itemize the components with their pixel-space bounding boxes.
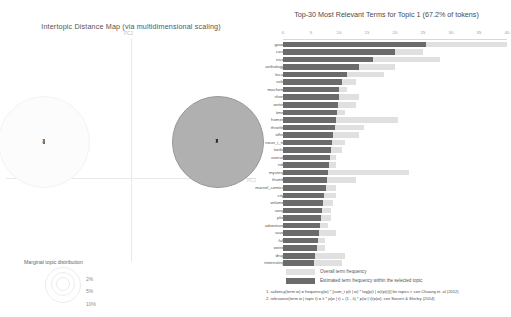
bar-topic-frequency [283, 223, 320, 229]
bar-topic-frequency [283, 94, 339, 100]
bar-topic-frequency [283, 177, 327, 183]
bar-topic-frequency [283, 253, 315, 259]
bar-row[interactable]: anthology [262, 64, 511, 71]
bar-term-label[interactable]: adventure [224, 223, 284, 228]
bar-row[interactable]: short [262, 94, 511, 101]
bar-row[interactable]: machete [262, 86, 511, 93]
bar-row[interactable]: nice [262, 56, 511, 63]
bar-term-label[interactable]: nice [224, 57, 284, 62]
bar-term-label[interactable]: plot [224, 215, 284, 220]
bar-term-label[interactable]: full [224, 238, 284, 243]
bar-term-label[interactable]: time [224, 110, 284, 115]
bar-term-label[interactable]: short [224, 94, 284, 99]
bar-term-label[interactable]: save [224, 230, 284, 235]
bar-term-label[interactable]: drug [224, 253, 284, 258]
x-axis-tick: 30 [449, 30, 454, 35]
bar-term-label[interactable]: interesting [224, 260, 284, 265]
bar-topic-frequency [283, 170, 328, 176]
bar-topic-frequency [283, 200, 323, 206]
bar-row[interactable]: throttle [262, 124, 511, 131]
bar-topic-frequency [283, 132, 333, 138]
bar-row[interactable]: local [262, 71, 511, 78]
bar-term-label[interactable]: volume [224, 200, 284, 205]
bar-term-label[interactable]: weird [224, 245, 284, 250]
bar-row[interactable]: time [262, 109, 511, 116]
bar-term-label[interactable]: city [224, 193, 284, 198]
topic-bubble-label-1: 1 [215, 138, 218, 144]
bar-row[interactable]: plot [262, 215, 511, 222]
bar-row[interactable]: good [262, 41, 511, 48]
bar-term-label[interactable]: rob [224, 162, 284, 167]
x-axis-tick: 25 [421, 30, 426, 35]
legend-label-overall: Overall term frequency [320, 269, 366, 274]
bar-topic-frequency [283, 72, 347, 78]
bar-topic-frequency [283, 102, 338, 108]
mtd-circle-2pct [56, 277, 70, 291]
bar-row[interactable]: mystery [262, 169, 511, 176]
bar-term-label[interactable]: offer [224, 132, 284, 137]
bar-term-label[interactable]: marvel_comics [224, 185, 284, 190]
x-axis-tick: 35 [477, 30, 482, 35]
bar-topic-frequency [283, 79, 342, 85]
bar-term-label[interactable]: song [224, 208, 284, 213]
bar-term-label[interactable]: noun_i_ts [224, 140, 284, 145]
bar-topic-frequency [283, 117, 336, 123]
bar-row[interactable]: save [262, 230, 511, 237]
bar-topic-frequency [283, 110, 337, 116]
bar-topic-frequency [283, 245, 317, 251]
bar-row[interactable]: adventure [262, 222, 511, 229]
bar-topic-frequency [283, 215, 321, 221]
bar-row[interactable]: drug [262, 252, 511, 259]
bar-row[interactable]: homes [262, 116, 511, 123]
bar-topic-frequency [283, 125, 335, 131]
bar-row[interactable]: volume [262, 199, 511, 206]
footnote-saliency: 1. saliency(term w) = frequency(w) * [su… [266, 288, 511, 295]
bar-topic-frequency [283, 193, 324, 199]
bar-row[interactable]: solo [262, 79, 511, 86]
legend-row-overall: Overall term frequency [262, 268, 511, 277]
bar-row[interactable]: marvel_comics [262, 184, 511, 191]
marginal-topic-distribution-title: Marginal topic distribution [24, 259, 83, 265]
bar-row[interactable]: weird [262, 245, 511, 252]
bar-row[interactable]: noun_i_ts [262, 139, 511, 146]
bar-topic-frequency [283, 140, 332, 146]
bar-row[interactable]: writer [262, 101, 511, 108]
bar-term-label[interactable]: solo [224, 79, 284, 84]
bar-term-label[interactable]: machete [224, 87, 284, 92]
x-axis-tick: 5 [310, 30, 312, 35]
bar-term-label[interactable]: thumb [224, 177, 284, 182]
bar-row[interactable]: cars [262, 49, 511, 56]
bar-topic-frequency [283, 147, 331, 153]
bar-term-label[interactable]: cars [224, 49, 284, 54]
bar-row[interactable]: overall [262, 154, 511, 161]
x-axis-tick: 20 [393, 30, 398, 35]
mtd-value-2pct: 2% [86, 276, 93, 282]
bar-row[interactable]: tanks [262, 147, 511, 154]
bar-row[interactable]: offer [262, 132, 511, 139]
legend-label-topic: Estimated term frequency within the sele… [320, 278, 422, 283]
bar-term-label[interactable]: overall [224, 155, 284, 160]
bar-term-label[interactable]: local [224, 72, 284, 77]
bar-row[interactable]: rob [262, 162, 511, 169]
barchart-title: Top-30 Most Relevant Terms for Topic 1 (… [262, 10, 511, 19]
x-axis-tick: 0 [282, 30, 284, 35]
legend-swatch-overall [286, 269, 315, 275]
topic-bubble-label-2: 2 [42, 138, 45, 144]
mtd-value-5pct: 5% [86, 288, 93, 294]
bar-row[interactable]: thumb [262, 177, 511, 184]
bar-term-label[interactable]: mystery [224, 170, 284, 175]
mtd-value-10pct: 10% [86, 301, 96, 307]
bar-term-label[interactable]: anthology [224, 64, 284, 69]
bar-topic-frequency [283, 42, 426, 48]
map-vertical-axis [131, 38, 132, 262]
bar-term-label[interactable]: good [224, 42, 284, 47]
bar-term-label[interactable]: homes [224, 117, 284, 122]
bar-term-label[interactable]: writer [224, 102, 284, 107]
bar-row[interactable]: interesting [262, 260, 511, 267]
x-axis-tick: 40 [505, 30, 510, 35]
bar-row[interactable]: full [262, 237, 511, 244]
bar-term-label[interactable]: throttle [224, 125, 284, 130]
bar-row[interactable]: song [262, 207, 511, 214]
bar-term-label[interactable]: tanks [224, 147, 284, 152]
bar-row[interactable]: city [262, 192, 511, 199]
